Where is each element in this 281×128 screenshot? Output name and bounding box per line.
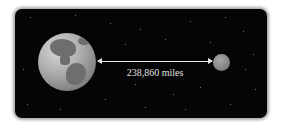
star bbox=[230, 104, 231, 105]
moon-icon bbox=[213, 54, 230, 71]
star bbox=[185, 109, 186, 110]
star bbox=[110, 23, 111, 24]
star bbox=[190, 21, 191, 22]
distance-arrow bbox=[99, 61, 212, 62]
star bbox=[135, 84, 136, 85]
star bbox=[245, 69, 246, 70]
earth-icon bbox=[38, 33, 96, 91]
star bbox=[200, 87, 201, 88]
star bbox=[253, 54, 254, 55]
distance-label: 238,860 miles bbox=[115, 67, 195, 78]
star bbox=[225, 17, 226, 18]
star bbox=[75, 15, 76, 16]
star bbox=[125, 44, 126, 45]
star bbox=[60, 109, 61, 110]
greenland-shape bbox=[78, 37, 90, 45]
star bbox=[243, 31, 244, 32]
star bbox=[165, 39, 166, 40]
star bbox=[210, 42, 211, 43]
star bbox=[145, 107, 146, 108]
star bbox=[255, 89, 256, 90]
star bbox=[23, 69, 24, 70]
south-america-shape bbox=[66, 63, 86, 85]
star bbox=[27, 104, 28, 105]
central-america-shape bbox=[60, 55, 70, 65]
star bbox=[30, 17, 31, 18]
star bbox=[105, 99, 106, 100]
star bbox=[140, 29, 141, 30]
space-background: 238,860 miles bbox=[15, 9, 267, 118]
star bbox=[173, 94, 174, 95]
